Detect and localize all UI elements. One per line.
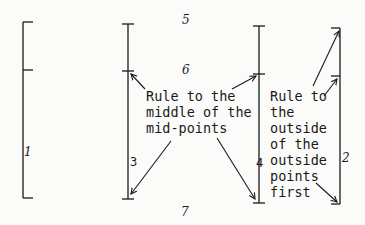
label-2: 2 (341, 151, 350, 165)
outside-note-line-1: Rule to (270, 88, 327, 104)
bracket-2 (331, 28, 340, 204)
middle-note-line-2: middle of the (146, 104, 252, 120)
outside-note-line-3: outside (270, 120, 327, 136)
label-5: 5 (182, 13, 190, 27)
bracket-1 (23, 22, 33, 198)
outside-note-line-2: the (270, 104, 294, 120)
outside-note-line-6: points (270, 168, 319, 184)
label-4: 4 (256, 156, 263, 170)
line-3 (122, 24, 134, 199)
outside-note-line-5: outside (270, 152, 327, 168)
line-4 (253, 26, 265, 203)
label-1: 1 (24, 145, 32, 159)
label-3: 3 (130, 155, 137, 169)
middle-note-line-3: mid-points (146, 120, 227, 136)
middle-note: Rule to the middle of the mid-points (146, 88, 252, 136)
outside-note-line-7: first (270, 184, 311, 200)
middle-note-line-1: Rule to the (146, 88, 235, 104)
outside-note: Rule to the outside of the outside point… (270, 88, 327, 200)
outside-note-line-4: of the (270, 136, 319, 152)
bracket-diagram: 1 3 5 6 7 4 2 Rule to the middle of the … (0, 0, 365, 225)
label-6: 6 (182, 63, 190, 77)
label-7: 7 (181, 205, 189, 219)
